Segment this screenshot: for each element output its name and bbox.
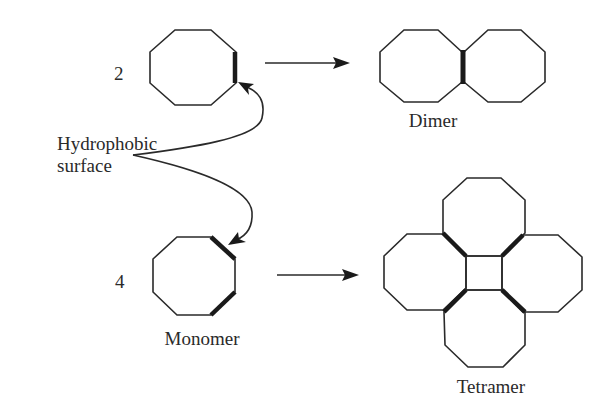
monomer-label: Monomer [165, 328, 241, 349]
self-assembly-diagram: 2 Dimer Hydrophobic surface 4 Monomer [0, 0, 615, 409]
tetramer-central-square [466, 256, 502, 290]
count-label-4: 4 [115, 271, 125, 292]
tetramer-label: Tetramer [457, 376, 526, 397]
hydrophobic-edge-lower [211, 292, 235, 315]
annotation-line2: surface [57, 155, 112, 176]
tetramer-interface-top-right [502, 235, 523, 256]
dimer-label: Dimer [409, 110, 458, 131]
monomer-octagon-top [150, 30, 236, 105]
count-label-2: 2 [114, 63, 124, 84]
tetramer [384, 178, 582, 367]
reaction-arrow-top [265, 57, 350, 69]
tetramer-interface-top-left [443, 233, 466, 256]
dimer [380, 30, 545, 102]
tetramer-interface-bottom-right [502, 290, 525, 312]
dimer-octagon-left [380, 30, 462, 102]
reaction-arrow-bottom [277, 269, 359, 281]
annotation-line1: Hydrophobic [57, 133, 157, 154]
dimer-octagon-right [464, 30, 545, 102]
hydrophobic-edge-upper [211, 237, 235, 259]
annotation-arrow-down [133, 155, 252, 245]
tetramer-interface-bottom-left [444, 290, 466, 312]
